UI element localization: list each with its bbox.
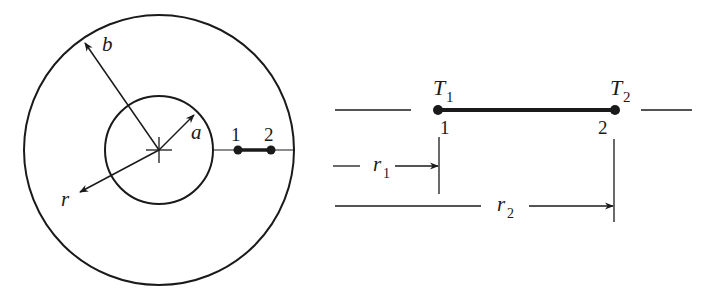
label-r1-subscript: 1	[383, 166, 390, 181]
label-T1-main: T	[433, 75, 447, 100]
node-1-dot	[234, 146, 243, 155]
label-r2-subscript: 2	[507, 206, 514, 221]
node-2-dot-right	[610, 105, 620, 115]
label-r2: r	[497, 192, 506, 216]
label-r1: r	[373, 152, 382, 176]
label-T2: T	[610, 75, 624, 100]
label-node-2: 2	[598, 117, 608, 138]
label-b: b	[102, 32, 113, 56]
label-a: a	[191, 120, 202, 144]
label-T1-subscript: 1	[446, 89, 454, 105]
element-diagram: T 1 T 2 1 2 r 1 r 2	[333, 75, 692, 222]
label-T2-main: T	[610, 75, 624, 100]
label-point-2: 2	[264, 124, 274, 145]
label-r2-main: r	[497, 192, 506, 216]
node-1-dot-right	[433, 105, 443, 115]
label-T1: T	[433, 75, 447, 100]
label-point-1: 1	[231, 124, 241, 145]
label-T2-subscript: 2	[623, 89, 631, 105]
label-r: r	[61, 187, 70, 211]
label-r1-main: r	[373, 152, 382, 176]
annulus-diagram: b a r 1 2	[24, 15, 295, 285]
node-2-dot	[267, 146, 276, 155]
diagram-canvas: b a r 1 2 T 1 T 2 1 2	[0, 0, 716, 303]
label-node-1: 1	[440, 117, 450, 138]
radius-a-arrow	[159, 115, 194, 150]
